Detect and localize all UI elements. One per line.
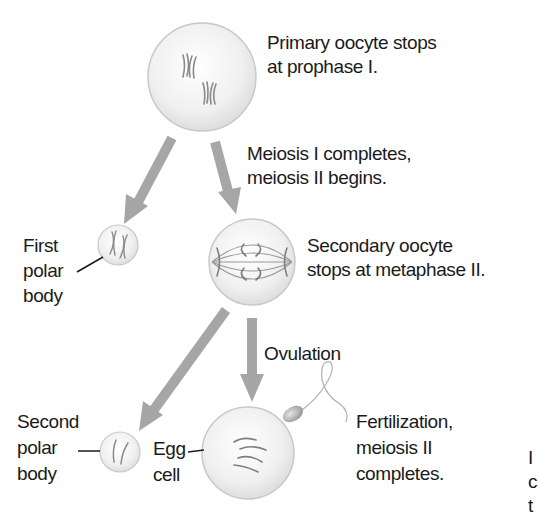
- first-polar-body-leader: [77, 257, 103, 272]
- label-secondary-oocyte: Secondary oocyte stops at metaphase II.: [307, 234, 485, 282]
- egg-cell: [202, 407, 294, 499]
- arrow-secondary-to-second-polar-body: [139, 310, 226, 431]
- edge-clipped-text: I c t: [528, 446, 538, 518]
- primary-oocyte-cell: [148, 23, 256, 131]
- arrow-primary-to-first-polar-body: [124, 138, 172, 224]
- arrow-primary-to-secondary-oocyte: [215, 142, 241, 214]
- label-meiosis-transition: Meiosis I completes, meiosis II begins.: [247, 142, 411, 190]
- secondary-oocyte-cell: [209, 219, 295, 305]
- label-second-polar-body: Second polar body: [17, 409, 79, 487]
- second-polar-body-cell: [100, 432, 140, 472]
- first-polar-body-cell: [98, 225, 138, 265]
- label-fertilization: Fertilization, meiosis II completes.: [356, 409, 453, 487]
- sperm-icon: [280, 362, 347, 426]
- label-egg-cell: Egg cell: [153, 436, 186, 488]
- label-ovulation: Ovulation: [264, 342, 341, 366]
- label-primary-oocyte: Primary oocyte stops at prophase I.: [267, 31, 436, 79]
- label-first-polar-body: First polar body: [23, 233, 63, 308]
- arrow-secondary-to-egg-ovulation: [240, 318, 264, 402]
